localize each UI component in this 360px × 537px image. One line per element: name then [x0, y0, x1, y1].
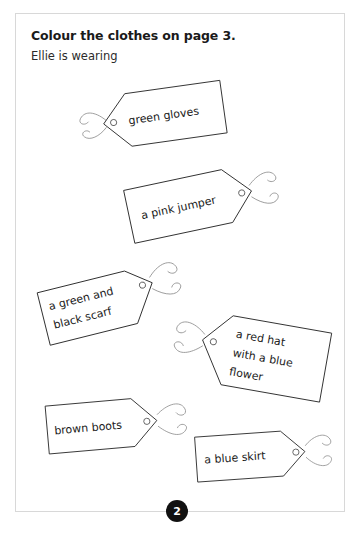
page-number-badge: 2	[166, 500, 188, 522]
page-subtitle: Ellie is wearing	[31, 49, 331, 63]
header-block: Colour the clothes on page 3. Ellie is w…	[31, 28, 331, 63]
worksheet-page: Colour the clothes on page 3. Ellie is w…	[0, 0, 360, 537]
page-border	[15, 13, 345, 512]
page-title: Colour the clothes on page 3.	[31, 28, 331, 44]
